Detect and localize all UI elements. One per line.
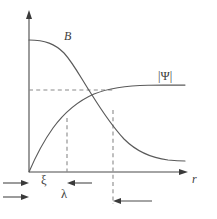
measurement-label-coherence-length: ξ (41, 174, 47, 187)
xi-left-arrow-icon (21, 180, 29, 186)
lambda-left-arrow-icon (21, 194, 29, 200)
measurement-label-penetration-depth: λ (61, 188, 67, 201)
axes-group (26, 10, 188, 175)
figure-canvas (0, 0, 217, 219)
lambda-measurement-arrows-group (3, 194, 152, 204)
physics-figure-container: B |Ψ| r ξ λ (0, 0, 217, 219)
x-axis-arrow-icon (179, 169, 188, 175)
magnetic-field-curve-B (29, 40, 185, 161)
curves-group (29, 40, 185, 172)
axis-label-radial-coordinate: r (192, 173, 197, 185)
y-axis-arrow-icon (26, 10, 32, 19)
curve-label-order-parameter: |Ψ| (158, 70, 172, 83)
xi-measurement-arrows-group (3, 180, 92, 186)
curve-label-magnetic-field: B (64, 30, 71, 42)
xi-right-arrow-icon (67, 180, 75, 186)
lambda-right-arrow-icon (113, 198, 121, 204)
